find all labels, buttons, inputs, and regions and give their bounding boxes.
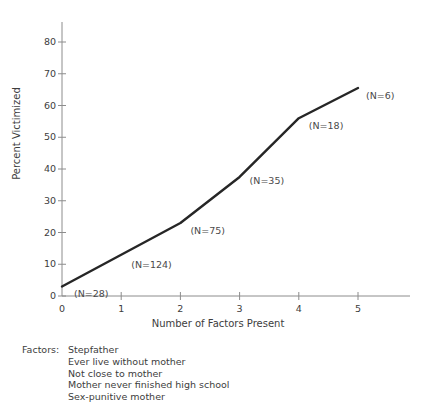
x-axis-tick-label: 0: [50, 303, 74, 314]
y-axis-tick-label: 50: [30, 132, 56, 142]
x-axis-tick-label-group: 012345: [0, 303, 436, 317]
data-point-annotation: (N=75): [190, 225, 225, 236]
footnote-item: Not close to mother: [68, 368, 229, 380]
footnote-item: Sex-punitive mother: [68, 391, 229, 403]
y-axis-tick-label: 60: [30, 101, 56, 111]
data-point-annotation: (N=35): [250, 175, 285, 186]
y-axis-tick-label: 20: [30, 228, 56, 238]
x-axis-tick-label: 1: [109, 303, 133, 314]
y-axis-tick-label: 80: [30, 37, 56, 47]
y-axis-tick-label: 0: [30, 291, 56, 301]
x-axis-tick-label: 3: [228, 303, 252, 314]
footnote-item: Mother never finished high school: [68, 379, 229, 391]
data-point-annotation: (N=6): [366, 90, 395, 101]
x-axis-title: Number of Factors Present: [0, 318, 436, 329]
data-point-annotation: (N=18): [309, 120, 344, 131]
chart-figure: 01020304050607080 012345 Percent Victimi…: [0, 0, 436, 406]
x-axis-tick-label: 2: [168, 303, 192, 314]
footnote-item-list: StepfatherEver live without motherNot cl…: [68, 344, 229, 403]
y-axis-tick-label: 70: [30, 69, 56, 79]
x-axis-tick-label: 5: [346, 303, 370, 314]
y-axis-tick-label: 40: [30, 164, 56, 174]
y-axis-tick-label: 30: [30, 196, 56, 206]
x-axis-tick-label: 4: [287, 303, 311, 314]
y-axis-title: Percent Victimized: [11, 74, 22, 194]
data-point-annotation: (N=28): [74, 288, 109, 299]
footnote-item: Ever live without mother: [68, 356, 229, 368]
footnote-title: Factors:: [22, 344, 59, 356]
data-series-line: [62, 88, 358, 286]
footnote-item: Stepfather: [68, 344, 229, 356]
data-point-annotation: (N=124): [131, 259, 172, 270]
y-axis-tick-label: 10: [30, 259, 56, 269]
